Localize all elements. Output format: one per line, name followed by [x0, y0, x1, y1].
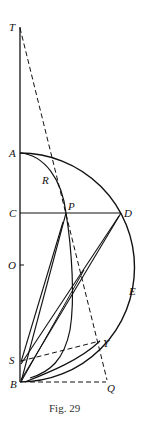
- label-O: O: [8, 259, 16, 271]
- label-A: A: [8, 147, 16, 159]
- label-D: D: [123, 207, 132, 219]
- label-C: C: [9, 207, 17, 219]
- label-Q: Q: [107, 382, 115, 394]
- label-S: S: [9, 354, 15, 366]
- semicircle-ADEB: [20, 153, 135, 382]
- line-PB: [21, 213, 66, 382]
- label-T: T: [9, 21, 16, 33]
- curve-ARP: [20, 153, 73, 378]
- dashed-line-TQ: [20, 28, 107, 380]
- label-B: B: [10, 378, 17, 390]
- label-P: P: [67, 200, 75, 212]
- line-PS: [21, 222, 63, 362]
- label-E: E: [128, 285, 136, 297]
- geometry-diagram: T A R C P D O E S Y B Q Fig. 29: [0, 0, 146, 422]
- figure-caption: Fig. 29: [49, 402, 81, 414]
- label-R: R: [41, 174, 49, 186]
